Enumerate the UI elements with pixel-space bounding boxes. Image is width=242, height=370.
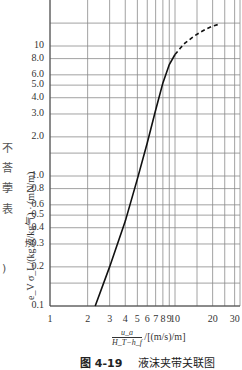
x-tick-label: 1 (48, 313, 53, 324)
caption-number: 图 4-19 (80, 357, 122, 370)
y-tick-label: 5.0 (0, 78, 44, 89)
y-tick-label: 0.1 (0, 299, 44, 310)
x-tick-label: 10 (170, 313, 180, 324)
y-tick-label: 4.0 (0, 91, 44, 102)
dashed-extrapolation-curve (175, 25, 218, 55)
x-tick-label: 7 (153, 313, 158, 324)
caption-text: 液沫夹带关联图 (138, 357, 215, 370)
y-tick-label: 6.0 (0, 68, 44, 79)
y-tick-label: 10 (0, 39, 44, 50)
y-tick-label: 2.0 (0, 130, 44, 141)
x-axis-numerator: u_a (112, 328, 142, 338)
x-tick-label: 8 (160, 313, 165, 324)
x-axis-unit: /[(m/s)/m] (144, 331, 185, 342)
x-tick-label: 2 (85, 313, 90, 324)
y-tick-label: 3.0 (0, 107, 44, 118)
figure-caption: 图 4-19 液沫夹带关联图 (80, 354, 215, 370)
y-tick-label: 8.0 (0, 52, 44, 63)
x-axis-label: u_a H_T−h_f /[(m/s)/m] (112, 328, 185, 347)
y-axis-label: e_V σ_L/(kg液/kg气) · (mN/m) (22, 172, 37, 300)
x-tick-label: 6 (145, 313, 150, 324)
x-axis-fraction: u_a H_T−h_f (112, 328, 142, 347)
x-axis-denominator: H_T−h_f (112, 338, 142, 347)
x-tick-label: 4 (123, 313, 128, 324)
x-tick-label: 3 (107, 313, 112, 324)
x-tick-label: 30 (230, 313, 240, 324)
x-tick-label: 20 (208, 313, 218, 324)
x-tick-label: 5 (135, 313, 140, 324)
